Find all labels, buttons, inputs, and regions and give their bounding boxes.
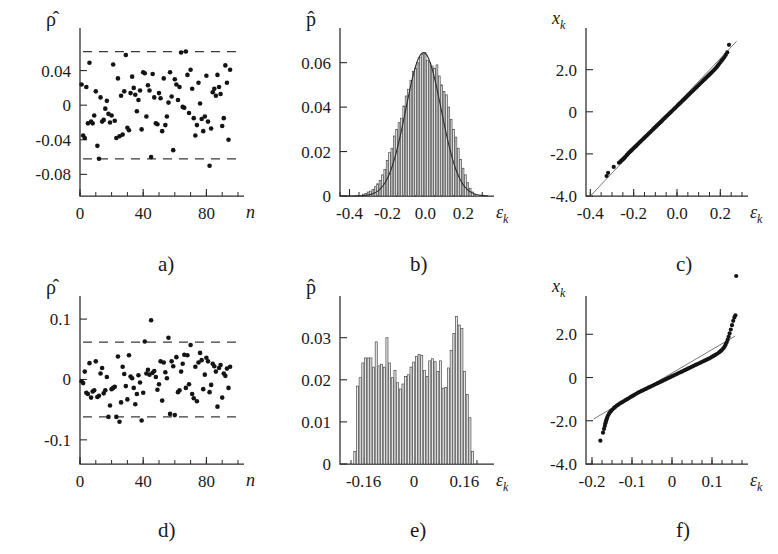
qq-point <box>598 439 602 443</box>
histogram-bar <box>364 358 366 464</box>
scatter-point <box>185 73 190 78</box>
scatter-point <box>180 361 185 366</box>
x-tick-label: 0.2 <box>710 204 731 223</box>
y-tick-label: 0.02 <box>301 143 331 162</box>
histogram-bar <box>389 363 391 464</box>
histogram-bar <box>442 388 444 464</box>
scatter-point <box>117 419 122 424</box>
histogram-bar <box>461 328 463 464</box>
scatter-point <box>182 105 187 110</box>
histogram-bar <box>443 92 445 196</box>
scatter-point <box>116 354 121 359</box>
histogram-bar <box>438 76 440 196</box>
x-axis-subscript: k <box>503 480 508 494</box>
x-tick-label: 0.16 <box>450 472 480 491</box>
scatter-point <box>105 99 110 104</box>
y-tick-label: 0 <box>569 103 578 122</box>
scatter-point <box>204 73 209 78</box>
scatter-point <box>193 133 198 138</box>
plot-panel-f: -0.2-0.100.12.00-2.0-4.0xkεkf) <box>516 276 770 516</box>
scatter-point <box>111 62 116 67</box>
scatter-point <box>198 101 203 106</box>
x-tick-label: 80 <box>198 204 215 223</box>
plot-panel-a: 040800.040-0.04-0.08ρ̂na) <box>8 8 256 248</box>
scatter-point <box>218 92 223 97</box>
x-tick-label: 0.1 <box>701 472 722 491</box>
scatter-point <box>122 372 127 377</box>
histogram-bar <box>422 54 424 196</box>
histogram-bar <box>445 387 447 464</box>
scatter-point <box>128 91 133 96</box>
scatter-point <box>214 369 219 374</box>
histogram-bar <box>407 375 409 464</box>
x-tick-label: 40 <box>135 204 152 223</box>
scatter-point <box>206 359 211 364</box>
histogram-bar <box>397 383 399 464</box>
scatter-point <box>218 363 223 368</box>
histogram-bar <box>427 60 429 196</box>
scatter-point <box>119 93 124 98</box>
y-axis-name-d: ρ̂ <box>46 276 56 299</box>
histogram-bar <box>383 367 385 464</box>
histogram-bar <box>464 371 466 464</box>
scatter-point <box>179 369 184 374</box>
scatter-point <box>120 132 125 137</box>
scatter-point <box>157 91 162 96</box>
scatter-point <box>221 116 226 121</box>
scatter-point <box>122 89 127 94</box>
histogram-bar <box>429 361 431 464</box>
histogram-bar <box>441 85 443 196</box>
scatter-point <box>150 72 155 77</box>
scatter-point <box>203 372 208 377</box>
scatter-point <box>112 384 117 389</box>
y-axis-name-e: p̂ <box>306 276 316 299</box>
scatter-point <box>141 390 146 395</box>
y-tick-label: 0.02 <box>301 371 331 390</box>
scatter-point <box>187 111 192 116</box>
scatter-point <box>135 109 140 114</box>
histogram-bar <box>415 357 417 464</box>
histogram-bar <box>402 384 404 464</box>
scatter-point <box>226 386 231 391</box>
x-tick-label: 0 <box>668 472 677 491</box>
scatter-point <box>166 336 171 341</box>
histogram-bar <box>374 187 376 196</box>
y-tick-label: -0.1 <box>44 431 71 450</box>
y-axis-name-b: p̂ <box>306 8 316 31</box>
scatter-point <box>215 73 220 78</box>
scatter-point <box>95 144 100 149</box>
x-tick-label: -0.2 <box>579 472 606 491</box>
histogram-bar <box>391 148 393 196</box>
histogram-bar <box>434 68 436 196</box>
scatter-point <box>139 127 144 132</box>
x-axis-name-f: εk <box>750 470 762 495</box>
scatter-point <box>92 113 97 118</box>
y-tick-label: 0.1 <box>50 310 71 329</box>
y-tick-label: -2.0 <box>550 145 577 164</box>
y-tick-label: 0 <box>323 455 332 474</box>
scatter-point <box>207 390 212 395</box>
scatter-point <box>199 358 204 363</box>
x-tick-label: -0.1 <box>619 472 646 491</box>
scatter-point <box>223 374 228 379</box>
histogram-bar <box>375 342 377 464</box>
scatter-point <box>157 382 162 387</box>
histogram-bar <box>421 355 423 464</box>
y-axis-name-f: xk <box>552 276 565 301</box>
scatter-point <box>100 366 105 371</box>
scatter-point <box>106 415 111 420</box>
plot-canvas-d: 040800.10-0.1 <box>8 276 256 516</box>
y-tick-label: 0 <box>63 96 72 115</box>
scatter-point <box>131 386 136 391</box>
histogram-bar <box>469 418 471 464</box>
scatter-point <box>152 95 157 100</box>
scatter-point <box>184 49 189 54</box>
panel-label-a: a) <box>158 252 174 277</box>
scatter-point <box>228 364 233 369</box>
scatter-point <box>215 404 220 409</box>
scatter-point <box>160 129 165 134</box>
histogram-bar <box>410 367 412 464</box>
histogram-bar <box>405 376 407 464</box>
histogram-bar <box>377 184 379 196</box>
scatter-point <box>226 137 231 142</box>
